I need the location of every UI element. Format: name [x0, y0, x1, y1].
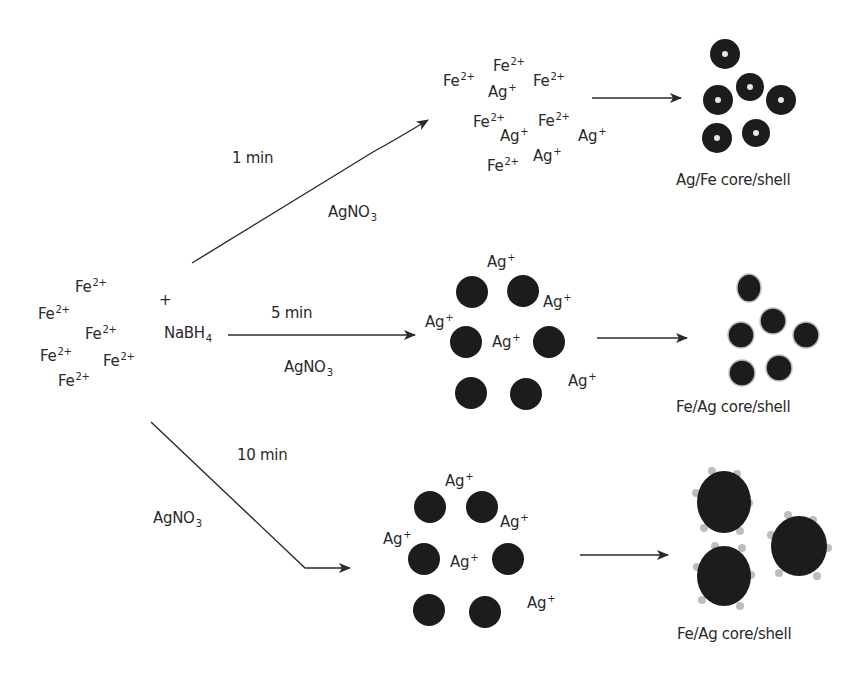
ag-ion-label: Ag+ — [488, 83, 516, 100]
fe-ag-particles-10min — [692, 467, 832, 610]
reagent-label-10min: AgNO3 — [153, 511, 202, 529]
product-label-fe-ag-5min: Fe/Ag core/shell — [676, 400, 790, 415]
ag-fe-particles — [702, 39, 796, 153]
fe-ion-label: Fe2+ — [38, 305, 70, 322]
plus-sign: + — [159, 293, 171, 308]
fe-ion-label: Fe2+ — [493, 57, 525, 74]
ag-ion-label: Ag+ — [527, 594, 555, 611]
ag-ion-label: Ag+ — [543, 293, 571, 310]
ag-ion-label: Ag+ — [578, 127, 606, 144]
fe-ion-label: Fe2+ — [75, 278, 107, 295]
diagram-graphics — [0, 0, 860, 677]
fe-ion-label: Fe2+ — [487, 157, 519, 174]
arrow-10min — [151, 422, 350, 568]
ag-ion-label: Ag+ — [487, 253, 515, 270]
arrow-1min — [192, 120, 428, 263]
fe-ag-particles-5min — [728, 274, 819, 386]
fe-ion-label: Fe2+ — [85, 325, 117, 342]
ag-ion-label: Ag+ — [425, 313, 453, 330]
time-label-5min: 5 min — [271, 306, 312, 321]
nabh4-label: NaBH4 — [164, 326, 212, 344]
ag-ion-label: Ag+ — [450, 553, 478, 570]
ag-ion-label: Ag+ — [568, 372, 596, 389]
reagent-label-5min: AgNO3 — [284, 360, 333, 378]
ag-ion-label: Ag+ — [500, 127, 528, 144]
time-label-1min: 1 min — [232, 151, 273, 166]
fe-ion-label: Fe2+ — [443, 72, 475, 89]
ag-ion-label: Ag+ — [445, 472, 473, 489]
ag-ion-label: Ag+ — [533, 147, 561, 164]
time-label-10min: 10 min — [237, 448, 287, 463]
ag-ion-label: Ag+ — [383, 530, 411, 547]
fe-ion-label: Fe2+ — [533, 72, 565, 89]
ag-ion-label: Ag+ — [492, 333, 520, 350]
product-label-ag-fe: Ag/Fe core/shell — [676, 173, 790, 188]
product-label-fe-ag-10min: Fe/Ag core/shell — [677, 627, 791, 642]
fe-ion-label: Fe2+ — [103, 352, 135, 369]
fe-ion-label: Fe2+ — [40, 347, 72, 364]
fe-ion-label: Fe2+ — [58, 372, 90, 389]
fe-ion-label: Fe2+ — [538, 112, 570, 129]
ag-ion-label: Ag+ — [500, 513, 528, 530]
reagent-label-1min: AgNO3 — [328, 205, 377, 223]
